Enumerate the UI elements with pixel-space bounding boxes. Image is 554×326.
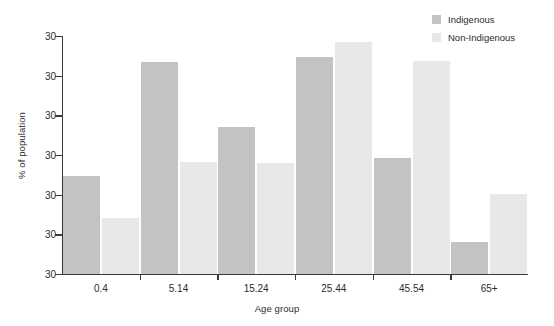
legend-item-label: Indigenous: [448, 14, 494, 25]
legend-item-non-indigenous[interactable]: Non-Indigenous: [432, 30, 554, 45]
x-axis-tick-label: 0.4: [94, 283, 108, 294]
bar-non-indigenous-65+: [490, 194, 527, 274]
y-axis-tick-mark: [55, 195, 62, 196]
y-axis-tick-mark: [55, 234, 62, 235]
bar-non-indigenous-45.54: [413, 61, 450, 274]
x-axis-tick-label: 45.54: [399, 283, 424, 294]
legend-swatch-icon: [432, 15, 441, 24]
y-axis-tick-label: 30: [26, 150, 56, 161]
y-axis-tick-label: 30: [26, 31, 56, 42]
legend-item-label: Non-Indigenous: [448, 32, 515, 43]
y-axis-title: % of population: [16, 76, 27, 216]
bar-non-indigenous-5.14: [180, 162, 217, 274]
chart-legend: IndigenousNon-Indigenous: [432, 12, 554, 48]
x-axis-tick-mark: [450, 274, 451, 280]
plot-area: [62, 36, 528, 274]
x-axis-tick-label: 65+: [481, 283, 498, 294]
y-axis-tick-label: 30: [26, 229, 56, 240]
y-axis-tick-mark: [55, 115, 62, 116]
bar-indigenous-25.44: [296, 57, 333, 274]
x-axis-tick-mark: [295, 274, 296, 280]
legend-swatch-icon: [432, 33, 441, 42]
y-axis-tick-mark: [55, 155, 62, 156]
bar-non-indigenous-15.24: [257, 163, 294, 274]
x-axis-tick-label: 15.24: [244, 283, 269, 294]
x-axis-title: Age group: [0, 303, 554, 314]
bar-indigenous-15.24: [218, 127, 255, 274]
bar-indigenous-5.14: [141, 62, 178, 274]
bar-indigenous-0.4: [63, 176, 100, 274]
bar-non-indigenous-25.44: [335, 42, 372, 274]
x-axis-tick-mark: [217, 274, 218, 280]
bar-non-indigenous-0.4: [102, 218, 139, 274]
x-axis-tick-label: 25.44: [321, 283, 346, 294]
y-axis-tick-label: 30: [26, 269, 56, 280]
bar-indigenous-45.54: [374, 158, 411, 274]
legend-item-indigenous[interactable]: Indigenous: [432, 12, 554, 27]
x-axis-tick-mark: [140, 274, 141, 280]
y-axis-tick-mark: [55, 36, 62, 37]
y-axis-tick-mark: [55, 274, 62, 275]
x-axis-tick-label: 5.14: [169, 283, 188, 294]
y-axis-tick-label: 30: [26, 189, 56, 200]
x-axis-tick-mark: [373, 274, 374, 280]
bar-chart: % of population 30303030303030 Age group…: [0, 0, 554, 326]
bar-indigenous-65+: [451, 242, 488, 274]
y-axis-tick-label: 30: [26, 110, 56, 121]
y-axis-tick-labels: 30303030303030: [26, 36, 56, 274]
y-axis-tick-label: 30: [26, 70, 56, 81]
y-axis-tick-mark: [55, 76, 62, 77]
